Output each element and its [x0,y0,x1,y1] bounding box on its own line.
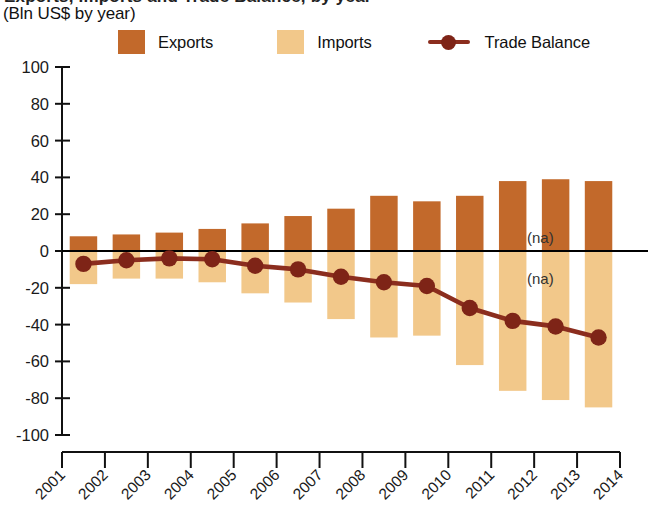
exports-bar [370,196,397,251]
x-tick-label: 2014 [590,466,627,503]
y-tick-label: 20 [31,205,49,223]
x-tick-label: 2005 [203,466,239,502]
exports-bar [156,233,183,251]
exports-bar [198,229,225,251]
x-tick-label: 2004 [160,466,197,503]
y-tick-label: -20 [25,279,49,297]
na-annotation-above: (na) [527,229,554,246]
exports-bar [241,223,268,251]
y-tick-label: 100 [21,58,49,76]
imports-bar [370,251,397,337]
trade-balance-point [462,300,478,316]
y-tick-label: 80 [31,95,49,113]
y-tick-label: 0 [40,242,49,260]
x-tick-label: 2002 [75,466,111,502]
x-tick-label: 2009 [375,466,411,502]
exports-bar [113,234,140,251]
imports-bar [585,251,612,407]
x-tick-label: 2013 [547,466,583,502]
x-tick-label: 2011 [462,466,498,502]
trade-balance-point [247,258,263,274]
x-tick-label: 2003 [118,466,154,502]
exports-bar [585,181,612,251]
trade-balance-point [333,269,349,285]
exports-bar [70,236,97,251]
exports-bar [284,216,311,251]
trade-balance-point [376,274,392,290]
trade-balance-point [204,251,220,267]
y-tick-label: -80 [25,389,49,407]
trade-balance-point [290,261,306,277]
x-tick-label: 2012 [504,466,540,502]
x-tick-label: 2001 [32,466,68,502]
x-tick-label: 2008 [332,466,368,502]
trade-balance-point [75,256,91,272]
trade-balance-point [161,250,177,266]
y-tick-label: 60 [31,132,49,150]
trade-balance-point [547,318,563,334]
x-axis-tick-marks [62,452,620,468]
x-tick-label: 2006 [246,466,282,502]
na-annotation-below: (na) [527,270,554,287]
y-tick-label: -40 [25,316,49,334]
y-axis-tick-labels: 100806040200-20-40-60-80-100 [16,58,49,444]
x-tick-label: 2010 [418,466,455,503]
x-axis-tick-labels: 2001200220032004200520062007200820092010… [32,466,627,503]
trade-balance-point [504,313,520,329]
exports-bar [413,201,440,251]
chart-plot-area: 100806040200-20-40-60-80-100 20012002200… [0,0,648,511]
exports-bar [456,196,483,251]
trade-balance-point [419,278,435,294]
y-tick-label: -100 [16,426,49,444]
exports-bar [499,181,526,251]
trade-balance-point [590,329,606,345]
y-tick-label: 40 [31,168,49,186]
imports-bar [327,251,354,319]
trade-balance-point [118,252,134,268]
x-tick-label: 2007 [289,466,325,502]
exports-bar [327,209,354,251]
y-tick-label: -60 [25,352,49,370]
